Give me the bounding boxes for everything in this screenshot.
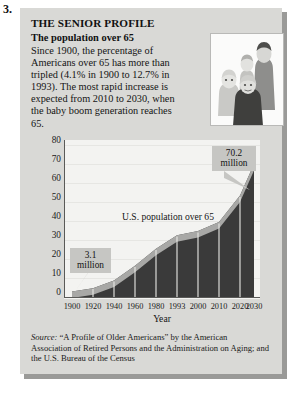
info-panel: THE SENIOR PROFILE The population over 6…: [20, 8, 282, 374]
y-tick-80: 80: [33, 136, 61, 145]
source-label: Source:: [31, 332, 57, 342]
plot-area: U.S. population over 65 3.1 million 70.2…: [64, 140, 260, 299]
x-tick-2000: 2000: [187, 302, 209, 312]
item-number: 3.: [3, 2, 12, 17]
y-tick-10: 10: [33, 269, 61, 278]
y-tick-70: 70: [33, 155, 61, 164]
x-axis-title: Year: [64, 313, 260, 324]
y-tick-0: 0: [33, 288, 61, 297]
x-tick-1993: 1993: [166, 302, 188, 312]
family-photo-illustration: [211, 34, 283, 125]
x-tick-1920: 1920: [82, 302, 104, 312]
x-tick-2010: 2010: [208, 302, 230, 312]
callout-end: 70.2 million: [212, 146, 256, 171]
source-note: Source: “A Profile of Older Americans” b…: [31, 332, 269, 364]
x-tick-1960: 1960: [124, 302, 146, 312]
source-text: “A Profile of Older Americans” by the Am…: [31, 332, 269, 363]
y-tick-50: 50: [33, 193, 61, 202]
chart: 80 70 60 50 40 30 20 10 0: [31, 136, 271, 331]
y-tick-60: 60: [33, 174, 61, 183]
series-label: U.S. population over 65: [122, 211, 214, 222]
x-tick-1900: 1900: [61, 302, 83, 312]
y-tick-30: 30: [33, 231, 61, 240]
callout-start: 3.1 million: [70, 248, 111, 273]
x-tick-2030: 2030: [243, 302, 265, 312]
panel-headline: THE SENIOR PROFILE: [31, 17, 273, 30]
y-tick-20: 20: [33, 250, 61, 259]
y-axis-ticks: 80 70 60 50 40 30 20 10 0: [31, 136, 61, 303]
y-tick-40: 40: [33, 212, 61, 221]
x-tick-1980: 1980: [145, 302, 167, 312]
panel-body-text: Since 1900, the percentage of Americans …: [31, 45, 187, 130]
family-photo: [210, 33, 284, 126]
x-tick-1940: 1940: [103, 302, 125, 312]
